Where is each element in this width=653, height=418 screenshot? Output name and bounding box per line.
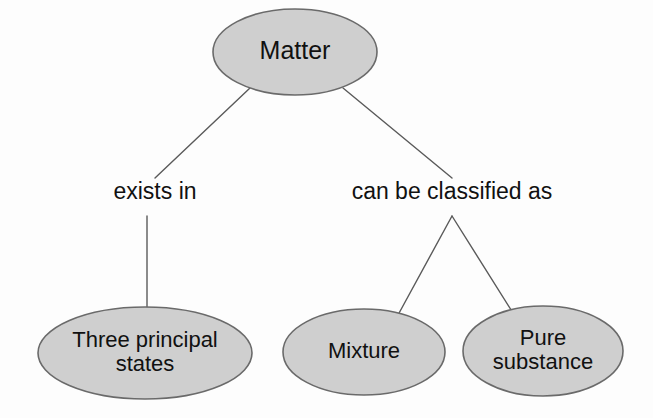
concept-map-diagram: Matter Three principalstates Mixture Pur… — [0, 0, 653, 418]
node-matter-label: Matter — [260, 36, 331, 64]
edge-label-exists-in: exists in — [113, 178, 196, 204]
connector-matter-to-exists-in — [155, 88, 250, 178]
node-pure-substance[interactable]: Puresubstance — [463, 306, 623, 396]
edge-label-can-be-classified-as: can be classified as — [352, 178, 553, 204]
node-mixture-label: Mixture — [328, 338, 400, 363]
connector-classified-to-mixture — [398, 216, 452, 315]
connector-classified-to-pure-substance — [452, 216, 513, 313]
diagram-canvas: Matter Three principalstates Mixture Pur… — [0, 0, 653, 418]
node-mixture[interactable]: Mixture — [283, 309, 445, 395]
node-three-principal-states[interactable]: Three principalstates — [38, 307, 252, 399]
connector-matter-to-can-be-classified-as — [343, 88, 452, 178]
node-matter[interactable]: Matter — [213, 9, 377, 95]
